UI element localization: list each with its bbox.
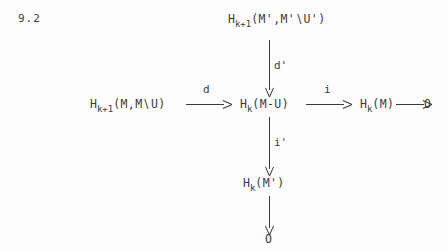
node-far-right-head: O [424,97,431,111]
node-bottom-zero: O [265,234,272,246]
arrowhead-down-icon [264,87,275,96]
arrow-shaft [269,117,270,169]
arrow-center-to-right [306,99,352,110]
node-top-subscript: k+1 [235,19,251,29]
node-far-right-zero: O [424,99,431,111]
arrowhead-right-icon [342,99,351,110]
node-top: Hk+1(M',M'∖U') [228,14,326,26]
node-center-head: H [240,97,247,111]
node-center-args: (M-U) [252,97,289,111]
arrow-shaft [269,196,270,228]
node-left: Hk+1(M,M∖U) [90,99,166,111]
arrow-shaft [186,104,224,105]
node-left-subscript: k+1 [97,104,113,114]
arrow-label-i-prime: i' [274,137,287,148]
arrow-shaft [269,40,270,90]
arrow-label-d: d [203,84,210,95]
node-right-head: H [360,97,367,111]
node-right-args: (M) [372,97,394,111]
diagram-page: 9.2 Hk+1(M',M'∖U') d' Hk+1(M,M∖U) d Hk(M… [0,0,447,251]
node-center: Hk(M-U) [240,99,289,111]
arrow-label-i: i [324,84,331,95]
arrow-left-to-center [186,99,232,110]
page-label: 9.2 [18,12,41,25]
arrow-bottom-to-zero [264,196,275,234]
arrowhead-right-icon [222,99,231,110]
node-top-args: (M',M'∖U') [251,12,325,26]
node-left-args: (M,M∖U) [113,97,165,111]
node-bottom: Hk(M') [243,178,285,190]
node-bottom-head: H [243,176,250,190]
node-right: Hk(M) [360,99,394,111]
arrow-shaft [306,104,344,105]
node-top-head: H [228,12,235,26]
node-bottom-zero-head: O [265,232,272,246]
arrow-shaft [396,104,424,105]
node-left-head: H [90,97,97,111]
arrow-label-d-prime: d' [274,60,287,71]
node-bottom-args: (M') [255,176,284,190]
arrowhead-down-icon [264,166,275,175]
